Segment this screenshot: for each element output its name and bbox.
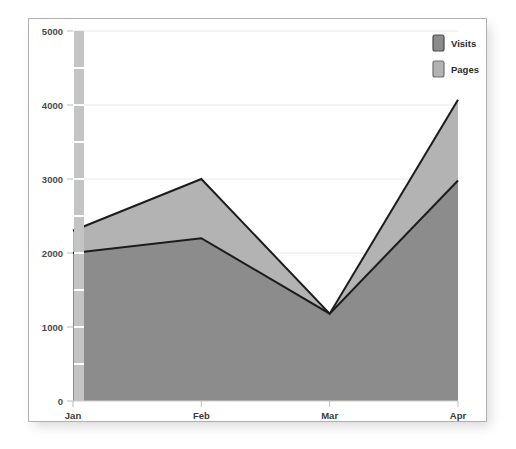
y-axis-tick-label: 3000 — [42, 174, 63, 185]
x-axis-tick-label: Jan — [65, 410, 82, 421]
chart-screenshot-root: 010002000300040005000 JanFebMarApr Visit… — [0, 0, 516, 449]
legend-swatch-icon — [433, 61, 444, 77]
chart-panel: 010002000300040005000 JanFebMarApr Visit… — [28, 18, 487, 422]
y-axis-tick-label: 0 — [58, 396, 63, 407]
legend-item-label: Pages — [451, 64, 479, 75]
y-axis-tick-label: 5000 — [42, 26, 63, 37]
area-chart[interactable]: 010002000300040005000 JanFebMarApr Visit… — [29, 19, 488, 423]
legend-item-visits[interactable]: Visits — [433, 35, 476, 51]
x-axis-tick-label: Apr — [450, 410, 467, 421]
legend-swatch-icon — [433, 35, 444, 51]
y-axis-tick-label: 1000 — [42, 322, 63, 333]
x-axis-ticks — [73, 401, 458, 407]
legend-item-pages[interactable]: Pages — [433, 61, 479, 77]
y-axis-tick-label: 4000 — [42, 100, 63, 111]
y-axis-tick-label: 2000 — [42, 248, 63, 259]
x-axis-labels: JanFebMarApr — [65, 410, 467, 421]
legend-item-label: Visits — [451, 38, 476, 49]
y-axis-ticks — [67, 31, 73, 401]
x-axis-tick-label: Feb — [193, 410, 210, 421]
y-axis-labels: 010002000300040005000 — [42, 26, 63, 407]
x-axis-tick-label: Mar — [321, 410, 338, 421]
vertical-range-slider[interactable] — [74, 31, 84, 401]
